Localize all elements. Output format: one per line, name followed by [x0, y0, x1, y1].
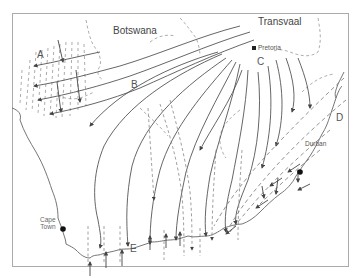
flow-lines-fan: [90, 52, 310, 248]
southeast-dashed-lines: [214, 78, 346, 232]
map-diagram: [0, 0, 361, 278]
flow-lines-west: [34, 26, 254, 114]
label-a: A: [37, 50, 44, 60]
label-durban: Durban: [305, 141, 326, 148]
south-coast-dashed: [88, 100, 242, 266]
label-cape-town: Cape Town: [40, 216, 56, 231]
region-a-hatching: [20, 42, 86, 118]
label-e: E: [130, 244, 137, 254]
label-d: D: [336, 113, 343, 123]
label-cape-town-line1: Cape: [40, 216, 56, 223]
cape-town-marker: [60, 226, 66, 232]
region-a-arrows: [57, 40, 80, 112]
label-b: B: [131, 80, 138, 90]
durban-marker: [297, 169, 303, 175]
dashed-boundaries: [58, 18, 334, 158]
pretoria-marker: [252, 46, 256, 50]
label-botswana: Botswana: [113, 26, 157, 36]
label-c: C: [257, 57, 264, 67]
label-pretoria: Pretoria: [258, 45, 281, 52]
label-cape-town-line2: Town: [40, 223, 56, 230]
label-transvaal: Transvaal: [258, 17, 302, 27]
